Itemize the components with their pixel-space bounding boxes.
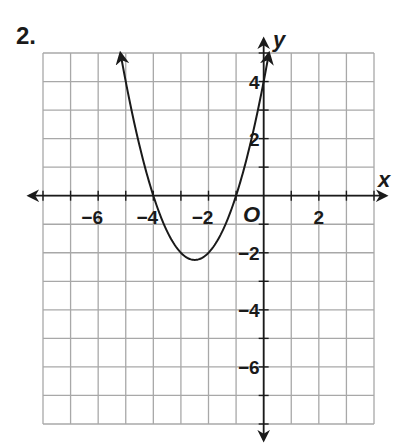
- x-axis-label: x: [377, 167, 391, 192]
- y-tick-label: 4: [249, 72, 260, 93]
- coordinate-graph: −6−4−2242−2−4−6 x y O: [0, 0, 398, 447]
- y-axis-label: y: [272, 27, 287, 52]
- x-tick-label: 2: [314, 207, 325, 228]
- axes: [29, 39, 386, 440]
- x-tick-label: −4: [136, 207, 158, 228]
- grid: [43, 53, 374, 424]
- parabola-curve: [121, 53, 269, 260]
- x-tick-label: −6: [81, 207, 103, 228]
- origin-label: O: [243, 202, 260, 227]
- y-tick-label: −2: [238, 243, 260, 264]
- y-tick-label: −4: [238, 300, 260, 321]
- x-tick-label: −2: [192, 207, 214, 228]
- y-tick-label: −6: [238, 357, 260, 378]
